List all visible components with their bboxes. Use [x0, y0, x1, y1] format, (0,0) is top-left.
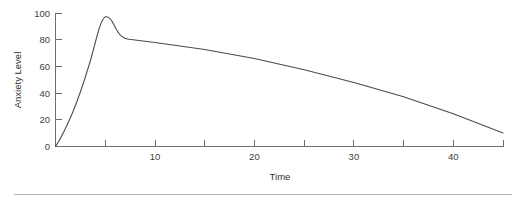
x-tick-label-30: 30	[349, 151, 360, 162]
anxiety-level-line-chart: 0 20 40 60 80 100 10 20 30 40	[0, 0, 530, 201]
x-tick-label-10: 10	[150, 151, 161, 162]
x-tick-label-20: 20	[249, 151, 260, 162]
y-tick-label-80: 80	[39, 34, 50, 45]
y-axis-tick-labels: 0 20 40 60 80 100	[34, 8, 50, 153]
y-tick-label-20: 20	[39, 114, 50, 125]
y-tick-label-0: 0	[45, 141, 50, 152]
y-tick-label-60: 60	[39, 61, 50, 72]
y-axis-title: Anxiety Level	[12, 52, 23, 109]
anxiety-curve	[56, 17, 504, 147]
x-axis-ticks	[56, 140, 504, 147]
y-tick-label-100: 100	[34, 8, 50, 19]
x-axis-title: Time	[270, 171, 291, 182]
x-axis-tick-labels: 10 20 30 40	[150, 151, 459, 162]
y-axis-ticks	[56, 13, 63, 147]
y-tick-label-40: 40	[39, 88, 50, 99]
x-tick-label-40: 40	[448, 151, 459, 162]
chart-figure: 0 20 40 60 80 100 10 20 30 40	[0, 0, 530, 201]
